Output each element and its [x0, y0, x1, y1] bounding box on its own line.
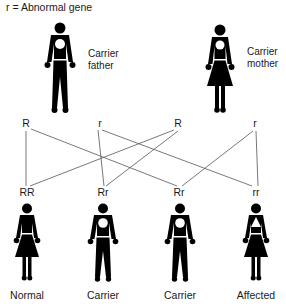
status-label-affected: Affected — [237, 289, 275, 301]
allele-father-R: R — [22, 117, 30, 129]
genotype-label-3: Rr — [173, 186, 184, 198]
mother-label: Carrier mother — [247, 46, 278, 70]
line-R-mother-to-RR — [30, 130, 174, 186]
status-label-normal: Normal — [10, 289, 44, 301]
child-normal-female-icon — [11, 203, 43, 281]
line-r-father-to-rr — [102, 130, 252, 186]
father-label: Carrier father — [88, 48, 119, 72]
child-carrier-male-icon — [160, 203, 200, 283]
genotype-label-1: RR — [19, 186, 34, 198]
genotype-label-2: Rr — [97, 186, 108, 198]
child-carrier-male-icon — [83, 203, 123, 283]
line-R-mother-to-Rr-1 — [106, 131, 178, 186]
carrier-circle-marker — [98, 218, 108, 228]
line-r-mother-to-rr — [256, 131, 258, 186]
mother-figure-female-icon — [202, 24, 238, 114]
carrier-circle-marker — [175, 218, 185, 228]
status-label-carrier: Carrier — [164, 289, 196, 301]
carrier-circle-marker — [55, 39, 65, 49]
allele-mother-R: R — [174, 117, 182, 129]
allele-mother-r: r — [253, 117, 257, 129]
allele-father-r: r — [98, 117, 102, 129]
line-r-mother-to-Rr-2 — [182, 131, 253, 186]
child-affected-female-icon — [240, 203, 272, 281]
father-figure-male-icon — [42, 22, 78, 114]
genotype-label-4: rr — [253, 186, 260, 198]
carrier-circle-marker — [216, 41, 225, 50]
status-label-carrier: Carrier — [87, 289, 119, 301]
